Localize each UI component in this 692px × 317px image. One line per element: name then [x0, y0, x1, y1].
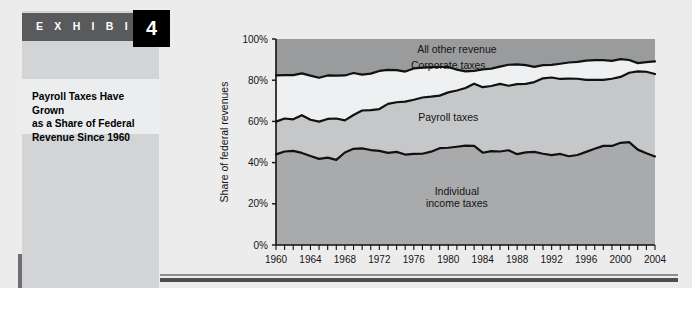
x-tick-label: 1980 — [437, 254, 460, 265]
exhibit-panel — [22, 11, 159, 288]
x-tick-label: 1960 — [265, 254, 288, 265]
exhibit-number: 4 — [133, 10, 170, 47]
x-tick-label: 1988 — [506, 254, 529, 265]
x-tick-label: 1964 — [299, 254, 322, 265]
chart-container: 0%20%40%60%80%100%1960196419681972197619… — [215, 24, 680, 274]
y-tick-label: 40% — [248, 157, 268, 168]
y-axis-title: Share of federal revenues — [218, 82, 230, 203]
chart-shadow — [160, 278, 678, 282]
series-annotation: Payroll taxes — [418, 111, 478, 123]
y-tick-label: 60% — [248, 116, 268, 127]
x-tick-label: 1968 — [334, 254, 357, 265]
chart-rule — [160, 274, 678, 276]
x-tick-label: 2004 — [644, 254, 667, 265]
x-tick-label: 1984 — [472, 254, 495, 265]
x-tick-label: 2000 — [609, 254, 632, 265]
area-chart: 0%20%40%60%80%100%1960196419681972197619… — [215, 24, 680, 274]
y-tick-label: 20% — [248, 198, 268, 209]
exhibit-title: Payroll Taxes Have Grown as a Share of F… — [32, 90, 157, 144]
series-annotation: Corporate taxes — [411, 59, 486, 71]
series-annotation: income taxes — [426, 197, 488, 209]
y-tick-label: 80% — [248, 75, 268, 86]
x-tick-label: 1996 — [575, 254, 598, 265]
x-tick-label: 1972 — [368, 254, 391, 265]
y-tick-label: 0% — [254, 240, 269, 251]
page-root: E X H I B I T 4 Payroll Taxes Have Grown… — [0, 0, 692, 317]
x-tick-label: 1992 — [541, 254, 564, 265]
series-annotation: Individual — [435, 185, 479, 197]
series-annotation: All other revenue — [417, 43, 497, 55]
x-tick-label: 1976 — [403, 254, 426, 265]
y-tick-label: 100% — [242, 34, 268, 45]
